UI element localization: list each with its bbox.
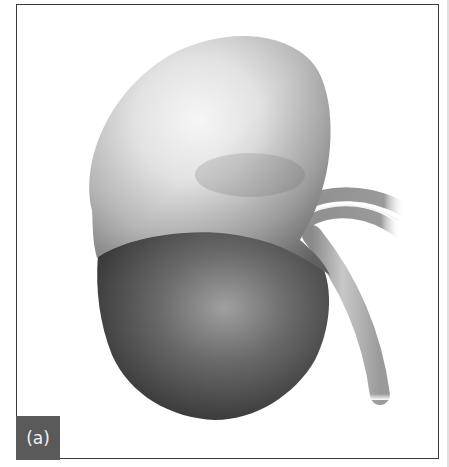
panel-label: (a): [16, 416, 60, 460]
kidney: [97, 226, 329, 420]
panel-label-text: (a): [26, 428, 50, 448]
kidney-illustration: [0, 0, 449, 467]
